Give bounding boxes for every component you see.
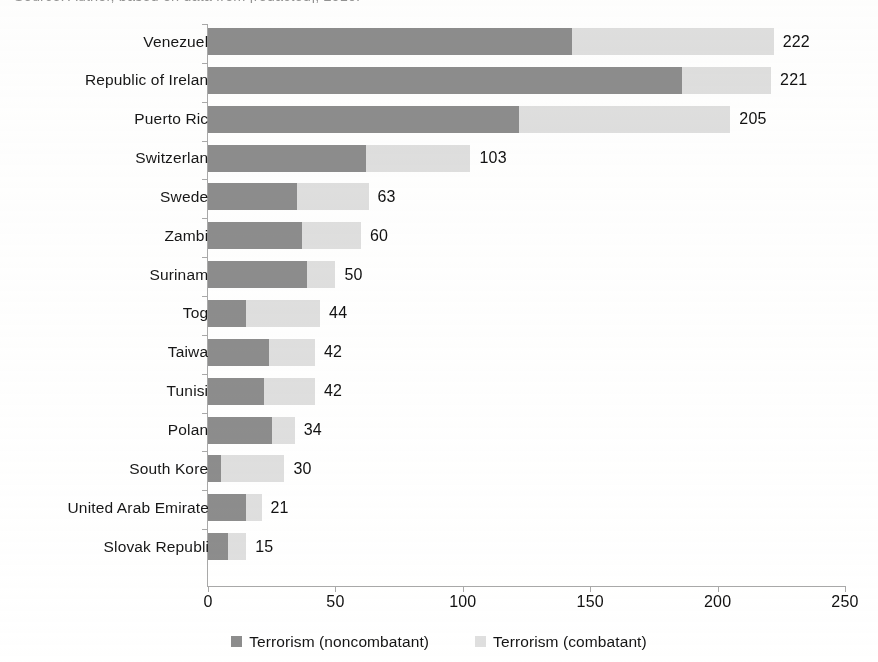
bar-segment-combatant[interactable] [297,183,368,210]
stacked-bar[interactable] [208,67,771,94]
x-axis-tick [463,586,464,592]
stacked-bar[interactable] [208,222,361,249]
category-label: Puerto Rico [134,111,217,127]
x-axis-line [207,586,846,587]
stacked-bar[interactable] [208,417,295,444]
x-axis-tick-label: 200 [688,594,748,610]
stacked-bar[interactable] [208,378,315,405]
y-axis-tick [202,490,208,491]
bar-segment-noncombatant[interactable] [208,455,221,482]
x-axis-tick [590,586,591,592]
y-axis-tick [202,179,208,180]
bar-value-label: 21 [271,500,289,516]
y-axis-tick [202,451,208,452]
bar-value-label: 15 [255,539,273,555]
category-label: Republic of Ireland [85,72,217,88]
bar-segment-combatant[interactable] [572,28,773,55]
bar-segment-combatant[interactable] [682,67,771,94]
y-axis-tick [202,141,208,142]
bar-segment-combatant[interactable] [519,106,730,133]
y-axis-tick [202,102,208,103]
bar-segment-noncombatant[interactable] [208,261,307,288]
chart-legend: Terrorism (noncombatant)Terrorism (comba… [0,634,878,650]
x-axis-tick [335,586,336,592]
bar-value-label: 205 [739,111,766,127]
bar-value-label: 50 [344,267,362,283]
y-axis-tick [202,374,208,375]
bar-segment-combatant[interactable] [307,261,335,288]
bar-value-label: 34 [304,422,322,438]
bar-segment-combatant[interactable] [272,417,295,444]
y-axis-tick [202,257,208,258]
bar-value-label: 60 [370,228,388,244]
stacked-bar[interactable] [208,339,315,366]
y-axis-tick [202,63,208,64]
bar-segment-combatant[interactable] [264,378,315,405]
x-axis-tick-label: 50 [305,594,365,610]
x-axis-tick [208,586,209,592]
category-label: Switzerland [135,150,217,166]
bar-segment-noncombatant[interactable] [208,494,246,521]
y-axis-tick [202,413,208,414]
stacked-bar[interactable] [208,261,335,288]
legend-label: Terrorism (combatant) [493,634,647,650]
bar-segment-noncombatant[interactable] [208,67,682,94]
stacked-bar[interactable] [208,183,369,210]
bar-segment-noncombatant[interactable] [208,106,519,133]
x-axis-tick-label: 100 [433,594,493,610]
bar-segment-noncombatant[interactable] [208,300,246,327]
bar-segment-combatant[interactable] [221,455,285,482]
bar-value-label: 42 [324,344,342,360]
bar-value-label: 42 [324,383,342,399]
x-axis-tick-label: 150 [560,594,620,610]
y-axis-tick [202,296,208,297]
stacked-bar[interactable] [208,455,284,482]
bar-segment-combatant[interactable] [302,222,361,249]
bar-value-label: 30 [293,461,311,477]
x-axis-tick [845,586,846,592]
bar-value-label: 63 [378,189,396,205]
legend-item[interactable]: Terrorism (noncombatant) [231,634,429,650]
stacked-bar[interactable] [208,533,246,560]
x-axis-tick-label: 0 [178,594,238,610]
category-label: United Arab Emirates [68,500,217,516]
bar-segment-combatant[interactable] [366,145,470,172]
bar-segment-noncombatant[interactable] [208,145,366,172]
bar-value-label: 44 [329,305,347,321]
bar-segment-noncombatant[interactable] [208,378,264,405]
category-label: South Korea [129,461,217,477]
stacked-bar[interactable] [208,28,774,55]
x-axis-tick [718,586,719,592]
stacked-bar[interactable] [208,494,262,521]
y-axis-tick [202,218,208,219]
bar-segment-noncombatant[interactable] [208,533,228,560]
bar-segment-noncombatant[interactable] [208,417,272,444]
y-axis-tick [202,335,208,336]
bar-segment-combatant[interactable] [269,339,315,366]
legend-item[interactable]: Terrorism (combatant) [475,634,647,650]
stacked-bar[interactable] [208,106,730,133]
bar-value-label: 221 [780,72,807,88]
legend-swatch-icon [231,636,242,647]
y-axis-tick [202,24,208,25]
stacked-bar-chart: Venezuela222Republic of Ireland221Puerto… [0,0,878,662]
bar-segment-combatant[interactable] [246,494,261,521]
bar-segment-combatant[interactable] [246,300,320,327]
y-axis-tick [202,529,208,530]
bar-segment-noncombatant[interactable] [208,339,269,366]
bar-segment-combatant[interactable] [228,533,246,560]
bar-segment-noncombatant[interactable] [208,28,572,55]
bar-value-label: 222 [783,34,810,50]
bar-segment-noncombatant[interactable] [208,222,302,249]
category-label: Suriname [149,267,217,283]
legend-swatch-icon [475,636,486,647]
bar-segment-noncombatant[interactable] [208,183,297,210]
bar-value-label: 103 [479,150,506,166]
category-label: Venezuela [143,34,217,50]
legend-label: Terrorism (noncombatant) [249,634,429,650]
category-label: Slovak Republic [104,539,217,555]
stacked-bar[interactable] [208,145,470,172]
stacked-bar[interactable] [208,300,320,327]
x-axis-tick-label: 250 [815,594,875,610]
